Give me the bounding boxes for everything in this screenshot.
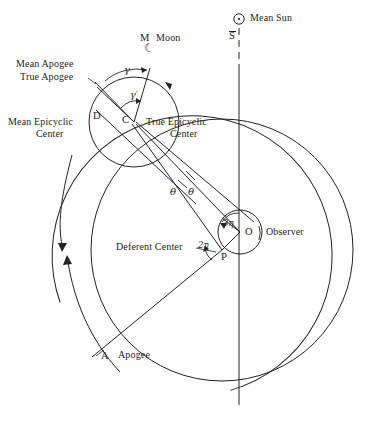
- point-a-label: A: [101, 350, 109, 362]
- moon-label: Moon: [156, 32, 181, 43]
- leader-true-apogee: [88, 78, 96, 84]
- crescent-moon-icon: ☾: [144, 42, 155, 55]
- mean-sun-dot-icon: [238, 18, 240, 20]
- observer-bracket: [259, 226, 260, 240]
- outer-eccentric-arc: [43, 106, 341, 397]
- direction-arc-down: [60, 155, 72, 245]
- angle-three-eta-label: 3η: [223, 219, 234, 229]
- theta-tick-left: [178, 180, 187, 188]
- apogee-label: Apogee: [118, 349, 150, 360]
- epicycle-direction-arrowhead: [165, 82, 172, 90]
- theta-tick-right: [186, 171, 195, 180]
- line-observer-to-deferent-center: [222, 232, 240, 250]
- angle-theta-left-label: θ: [170, 186, 176, 197]
- observer-label: Observer: [266, 226, 304, 237]
- mean-epicyclic-center-line2: Center: [36, 128, 64, 139]
- mean-epicyclic-center-line1: Mean Epicyclic: [8, 116, 73, 127]
- point-p-label: P: [221, 251, 227, 263]
- true-apogee-label: True Apogee: [20, 71, 73, 82]
- true-epicyclic-center-line2: Center: [170, 128, 198, 139]
- s-bar-text: S: [229, 30, 235, 42]
- line-deferent-center-to-apogee: [92, 250, 222, 357]
- deferent-center-label: Deferent Center: [116, 241, 182, 252]
- direction-arc-up-arrowhead: [63, 255, 72, 265]
- angle-gamma-label: γ: [124, 64, 130, 75]
- mean-apogee-label: Mean Apogee: [16, 58, 73, 69]
- point-o-label: O: [245, 226, 253, 238]
- true-epicyclic-center-line1: True Epicyclic: [146, 116, 207, 127]
- angle-two-eta-label: 2η: [198, 241, 209, 251]
- lunar-epicycle-diagram: Mean Sun S M Moon ☾ Mean Apogee True Apo…: [0, 0, 389, 424]
- mean-sun-label: Mean Sun: [250, 12, 292, 23]
- angle-gamma-prime-label: γ′: [130, 90, 138, 101]
- angle-theta-right-label: θ: [188, 186, 194, 197]
- point-d-label: D: [93, 110, 101, 122]
- line-deferent-center-to-epicycle-center: [132, 124, 222, 250]
- point-c-label: C: [122, 114, 129, 126]
- angle-arc-gamma-arrowhead: [141, 67, 147, 73]
- s-bar-label: S: [229, 30, 235, 42]
- direction-arc-down-arrowhead: [58, 243, 67, 252]
- line-observer-to-true-epicycle-center: [136, 124, 240, 232]
